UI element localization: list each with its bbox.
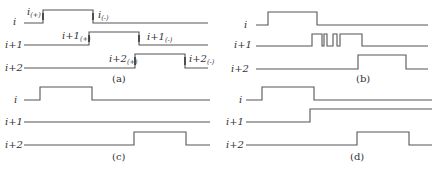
panel-b: i i+1 i+2 (b)	[231, 12, 428, 84]
signal-label-i: i	[244, 19, 247, 30]
marker-i1-minus: i+1(-)	[147, 31, 173, 44]
waveform-i1	[256, 34, 428, 46]
caption-b: (b)	[356, 73, 370, 84]
signal-label-i2: i+2	[5, 139, 23, 150]
panel-d: i i+1 i+2 (d)	[226, 87, 432, 162]
panel-a: i i(+) i(-) i+1 i+1(+) i+1(-) i+2 i+2(+)…	[5, 6, 215, 84]
signal-label-i1: i+1	[5, 116, 23, 127]
signal-label-i1: i+1	[5, 39, 23, 50]
signal-label-i: i	[13, 16, 16, 27]
signal-label-i2: i+2	[226, 139, 244, 150]
signal-label-i: i	[14, 94, 17, 105]
waveform-i	[24, 87, 210, 100]
caption-d: (d)	[350, 151, 364, 162]
caption-a: (a)	[112, 73, 126, 84]
signal-label-i1: i+1	[226, 116, 244, 127]
marker-i2-minus: i+2(-)	[189, 53, 215, 66]
marker-i1-plus: i+1(+)	[62, 30, 91, 43]
waveform-i	[256, 12, 428, 25]
signal-label-i2: i+2	[231, 63, 249, 74]
panel-c: i i+1 i+2 (c)	[5, 87, 210, 162]
waveform-i	[246, 87, 432, 100]
caption-c: (c)	[112, 151, 126, 162]
waveform-i1	[246, 109, 432, 122]
signal-label-i1: i+1	[234, 39, 252, 50]
signal-label-i2: i+2	[5, 62, 23, 73]
marker-i-plus: i(+)	[27, 6, 41, 19]
signal-label-i: i	[239, 94, 242, 105]
waveform-i2	[246, 132, 432, 145]
marker-i2-plus: i+2(+)	[109, 53, 138, 66]
marker-i-minus: i(-)	[98, 9, 109, 22]
waveform-i2	[24, 132, 210, 145]
waveform-i2	[256, 55, 428, 69]
waveform-i	[24, 10, 208, 23]
timing-diagram: i i(+) i(-) i+1 i+1(+) i+1(-) i+2 i+2(+)…	[0, 0, 437, 169]
waveform-i1	[24, 32, 208, 45]
